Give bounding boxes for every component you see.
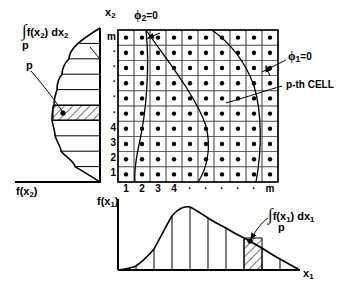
cell-dot <box>268 96 272 100</box>
cell-dot <box>188 81 192 85</box>
phi1-eq: =0 <box>300 51 311 62</box>
cell-dot <box>236 142 240 146</box>
cell-dot <box>172 142 176 146</box>
grid-row-label: · <box>104 92 116 102</box>
cell-dot <box>140 172 144 176</box>
cell-dot <box>156 172 160 176</box>
left-integral-dx-sub: 2 <box>64 31 68 40</box>
grid-row-label: 3 <box>104 138 116 148</box>
cell-dot <box>252 172 256 176</box>
phi2-symbol: ϕ <box>134 8 142 22</box>
cell-dot <box>236 111 240 115</box>
cell-dot <box>188 35 192 39</box>
cell-dot <box>252 142 256 146</box>
cell-dot <box>140 142 144 146</box>
cell-dot <box>156 35 160 39</box>
cell-dot <box>172 51 176 55</box>
cell-dot <box>204 81 208 85</box>
grid-col-label: · <box>201 184 211 194</box>
cell-dot <box>268 157 272 161</box>
grid-row-label: 1 <box>104 168 116 178</box>
cell-dot <box>268 127 272 131</box>
pth-cell-label: p-th CELL <box>286 80 334 90</box>
cell-dot <box>268 172 272 176</box>
cell-dot <box>252 127 256 131</box>
cell-dot <box>124 111 128 115</box>
cell-dot <box>236 127 240 131</box>
bottom-integral-dx: ) dx <box>291 210 311 222</box>
grid-col-label: · <box>217 184 227 194</box>
grid-col-label: 1 <box>121 184 131 194</box>
cell-grid <box>118 30 286 182</box>
fx2-main: f(x <box>16 185 29 197</box>
cell-dot <box>188 111 192 115</box>
x2-axis-sub: 2 <box>111 11 115 20</box>
grid-col-label: 4 <box>169 184 179 194</box>
grid-col-label: · <box>185 184 195 194</box>
bottom-integral-label: ∫f(x1) dx1 <box>268 206 315 224</box>
cell-dot <box>236 35 240 39</box>
cell-dot <box>252 51 256 55</box>
grid-row-label: 2 <box>104 153 116 163</box>
cell-dot <box>140 35 144 39</box>
cell-dot <box>124 157 128 161</box>
cell-dot <box>124 66 128 70</box>
cell-dot <box>156 51 160 55</box>
phi1-symbol: ϕ <box>288 49 296 63</box>
cell-dot <box>124 81 128 85</box>
bottom-integral-leader <box>251 218 268 239</box>
cell-dot <box>156 142 160 146</box>
cell-dot <box>172 96 176 100</box>
cell-dot <box>236 66 240 70</box>
phi1-leader <box>262 60 286 72</box>
grid-col-label: · <box>249 184 259 194</box>
cell-dot <box>172 35 176 39</box>
cell-dot <box>268 142 272 146</box>
cell-dot <box>124 35 128 39</box>
cell-dot <box>156 66 160 70</box>
left-integral-fx: f(x <box>27 26 40 38</box>
cell-dot <box>124 127 128 131</box>
cell-dot <box>204 96 208 100</box>
figure-root: ∫f(x2) dx2 p p x2 f(x2) ϕ2=0 ϕ1=0 p-th C… <box>0 0 348 291</box>
cell-dot <box>220 81 224 85</box>
cell-dot <box>188 127 192 131</box>
x2-axis-label: x2 <box>105 7 116 20</box>
cell-dot <box>156 127 160 131</box>
grid-col-label: 2 <box>137 184 147 194</box>
cell-dot <box>188 66 192 70</box>
grid-row-label: · <box>104 108 116 118</box>
grid-row-label: · <box>104 47 116 57</box>
left-p-marker <box>60 110 65 115</box>
cell-dot <box>172 127 176 131</box>
cell-dot <box>204 35 208 39</box>
left-integral-leader <box>90 47 99 58</box>
cell-dot <box>140 111 144 115</box>
cell-dot <box>204 142 208 146</box>
cell-dot <box>220 111 224 115</box>
cell-dot <box>124 96 128 100</box>
left-integral-dx: ) dx <box>45 26 65 38</box>
cell-dot <box>140 81 144 85</box>
fx1-main: f(x <box>97 195 110 207</box>
cell-dot <box>220 172 224 176</box>
cell-dot <box>140 157 144 161</box>
cell-dot <box>156 157 160 161</box>
cell-dot <box>220 157 224 161</box>
cell-dot <box>124 172 128 176</box>
grid-row-label: · <box>104 62 116 72</box>
phi2-eq: =0 <box>146 10 157 21</box>
cell-dot <box>220 51 224 55</box>
fx1-close: ) <box>115 195 119 207</box>
cell-dot <box>204 172 208 176</box>
diagram-canvas <box>0 0 348 291</box>
cell-dot <box>268 81 272 85</box>
x1-sub: 1 <box>309 272 313 281</box>
cell-dot <box>156 111 160 115</box>
left-integral-label: ∫f(x2) dx2 <box>22 22 69 40</box>
grid-row-label: · <box>104 77 116 87</box>
fx2-close: ) <box>34 185 38 197</box>
cell-dot <box>156 81 160 85</box>
grid-row-label: m <box>104 32 116 42</box>
cell-dot <box>172 157 176 161</box>
